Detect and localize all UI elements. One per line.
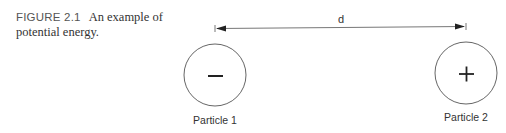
particle-2	[435, 42, 497, 104]
particle-1	[184, 44, 246, 106]
arrowhead-right-icon	[455, 24, 465, 30]
arrowhead-left-icon	[216, 26, 226, 32]
distance-label: d	[338, 13, 344, 25]
particle-1-label: Particle 1	[193, 114, 237, 126]
particle-2-label: Particle 2	[444, 111, 488, 123]
potential-energy-diagram: d Particle 1 Particle 2	[0, 0, 506, 133]
